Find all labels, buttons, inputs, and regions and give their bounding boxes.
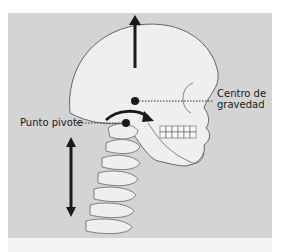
- skull-shape: [70, 24, 219, 166]
- pivot-point-label: Punto pivote: [20, 117, 83, 128]
- center-of-gravity-label-line2: gravedad: [217, 99, 266, 110]
- teeth: [160, 126, 196, 138]
- center-of-gravity-label-line1: Centro de: [217, 88, 266, 99]
- vertical-double-arrow: [66, 137, 76, 217]
- bottom-strip: [8, 238, 272, 252]
- pivot-point-dot: [122, 119, 130, 127]
- center-of-gravity-label: Centro de gravedad: [217, 88, 266, 110]
- diagram-panel: Centro de gravedad Punto pivote: [8, 13, 272, 238]
- center-of-gravity-dot: [131, 97, 139, 105]
- cervical-spine: [86, 124, 140, 234]
